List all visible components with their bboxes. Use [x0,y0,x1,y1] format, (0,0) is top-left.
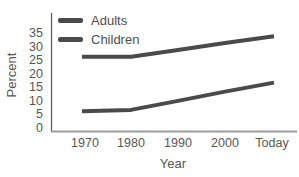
y-tick-label: 35 [29,27,43,40]
y-tick-label: 25 [29,54,43,67]
legend-label-adults: Adults [91,14,127,27]
y-tick-label: 20 [29,68,43,81]
x-tick-label: 1990 [164,137,192,150]
y-tick-label: 5 [36,108,43,121]
series-line-1 [82,83,274,112]
x-axis-title: Year [160,156,186,171]
y-tick-label: 30 [29,41,43,54]
line-chart: Adults Children 35 30 25 20 15 10 5 0 19… [0,0,299,177]
legend-row-adults: Adults [58,14,139,27]
legend-label-children: Children [91,33,139,46]
y-tick-label: 0 [36,122,43,135]
x-tick-label: Today [255,137,288,150]
legend: Adults Children [58,14,139,52]
children-line-swatch-icon [58,37,83,42]
y-axis-title: Percent [4,53,19,98]
adults-line-swatch-icon [58,18,83,23]
y-tick-label: 15 [29,81,43,94]
legend-row-children: Children [58,33,139,46]
y-tick-label: 10 [29,95,43,108]
x-tick-label: 1980 [117,137,145,150]
x-tick-label: 2000 [211,137,239,150]
x-tick-label: 1970 [71,137,99,150]
